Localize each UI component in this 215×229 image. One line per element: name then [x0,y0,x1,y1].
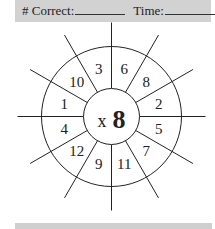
sector-label: 8 [142,74,150,90]
sector-label: 5 [155,121,163,137]
sector-label: 10 [69,74,84,90]
sector-label: 9 [95,156,103,172]
center-circle [84,89,140,145]
sector-label: 2 [155,96,163,112]
sector-label: 7 [142,143,150,159]
sector-label: 12 [69,143,84,159]
sector-label: 4 [60,121,68,137]
sector-label: 3 [95,61,103,77]
center-operator: x [98,111,107,131]
center-multiplier: 8 [113,105,126,134]
footer-bar [15,223,212,229]
sector-label: 6 [120,61,128,77]
sector-label: 1 [60,96,68,112]
multiplication-wheel: 6 8 2 5 7 11 9 12 4 1 10 3 x 8 [0,0,215,229]
sector-label: 11 [117,156,131,172]
